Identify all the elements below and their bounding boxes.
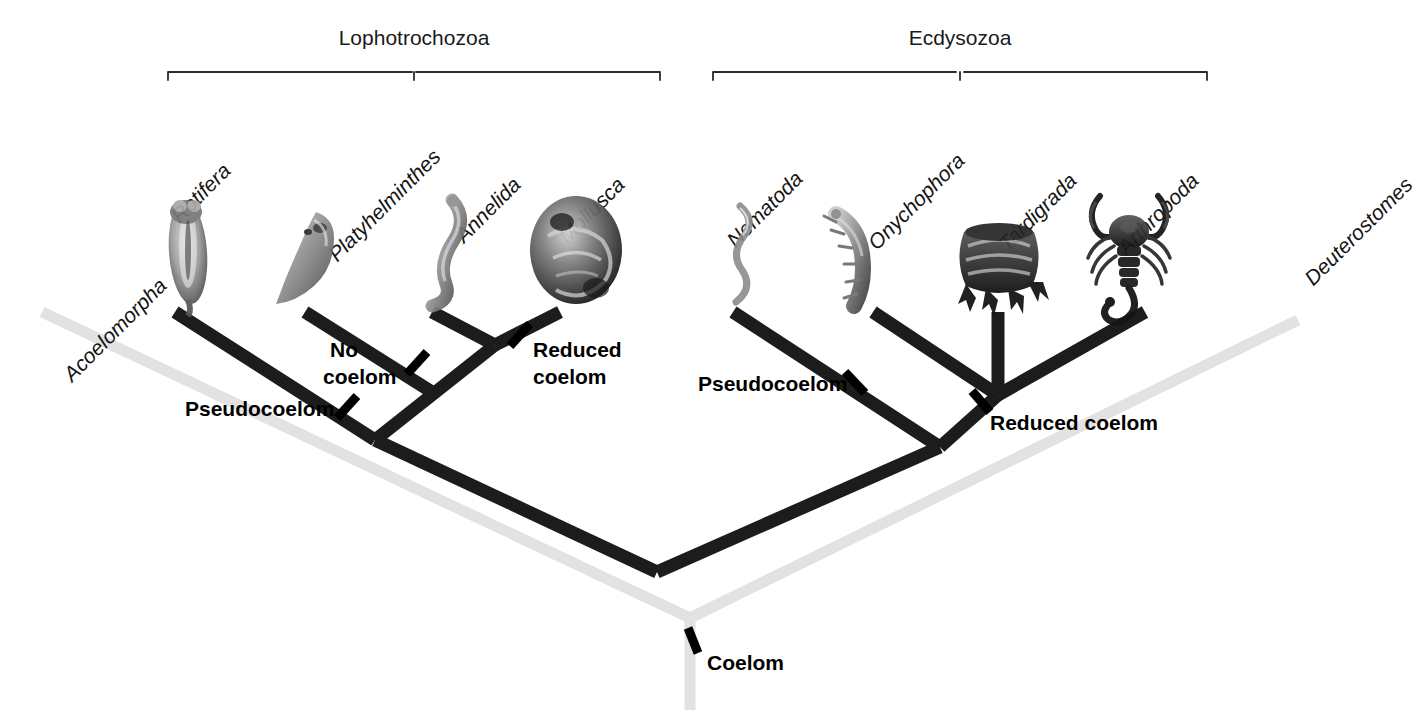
trait-label-reduced-coelom-left-line1: Reduced	[533, 338, 622, 361]
rotifer-illustration	[165, 199, 210, 316]
trait-label-no-coelom-line1: No	[330, 338, 358, 361]
mollusc-shell-illustration	[530, 196, 622, 304]
branch-onychophora	[873, 312, 998, 395]
tick-no-coelom	[407, 352, 427, 374]
branch-root-right	[657, 447, 940, 572]
annelid-worm-illustration	[432, 195, 461, 306]
trait-label-no-coelom-line2: coelom	[323, 365, 397, 388]
clade-bracket-group	[168, 72, 1207, 80]
branch-root-left	[375, 440, 657, 572]
cladogram-canvas: Lophotrochozoa Ecdysozoa Acoelomorpha Ro…	[0, 0, 1427, 710]
taxon-label-onychophora: Onychophora	[863, 149, 968, 254]
velvet-worm-illustration	[824, 209, 863, 306]
trait-label-reduced-coelom-left-line2: coelom	[533, 365, 607, 388]
taxon-label-deuterostomes: Deuterostomes	[1300, 172, 1417, 289]
taxon-label-nematoda: Nematoda	[722, 167, 807, 252]
cladogram-figure: Lophotrochozoa Ecdysozoa Acoelomorpha Ro…	[0, 0, 1427, 710]
branch-annelida	[432, 312, 495, 345]
trait-label-reduced-coelom-right: Reduced coelom	[990, 411, 1158, 434]
gray-branch-group	[42, 312, 1298, 710]
tardigrade-illustration	[958, 223, 1049, 316]
trait-label-pseudocoelom-left: Pseudocoelom	[185, 397, 334, 420]
clade-label-ecdysozoa: Ecdysozoa	[909, 26, 1012, 49]
branch-rotifera-node-up	[375, 345, 495, 440]
trait-label-coelom-root: Coelom	[707, 651, 784, 674]
taxon-label-platyhelminthes: Platyhelminthes	[324, 144, 445, 265]
flatworm-illustration	[276, 212, 334, 304]
trait-label-pseudocoelom-right: Pseudocoelom	[698, 372, 847, 395]
clade-label-lophotrochozoa: Lophotrochozoa	[339, 26, 490, 49]
